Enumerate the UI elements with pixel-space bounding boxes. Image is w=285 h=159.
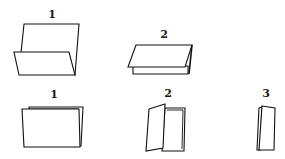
top-figure-1: 1 xyxy=(14,8,79,75)
bottom-figure-2-label: 2 xyxy=(164,87,172,100)
bottom-figure-1-label: 1 xyxy=(50,88,58,101)
right-panel xyxy=(162,108,185,151)
top-figure-1-label: 1 xyxy=(48,8,56,21)
bottom-figure-3: 3 xyxy=(257,87,275,150)
top-figure-2-label: 2 xyxy=(160,28,168,41)
bottom-figure-3-label: 3 xyxy=(262,87,270,100)
top-figure-2: 2 xyxy=(128,28,192,74)
bottom-figure-1: 1 xyxy=(22,88,83,147)
front-sheet xyxy=(22,109,80,147)
left-panel xyxy=(146,104,165,151)
bottom-figure-2: 2 xyxy=(146,87,185,151)
top-flap xyxy=(128,45,192,67)
front-panel xyxy=(259,106,275,150)
fold-diagram: 1 2 1 2 3 xyxy=(0,0,285,159)
front-flap xyxy=(14,52,75,75)
